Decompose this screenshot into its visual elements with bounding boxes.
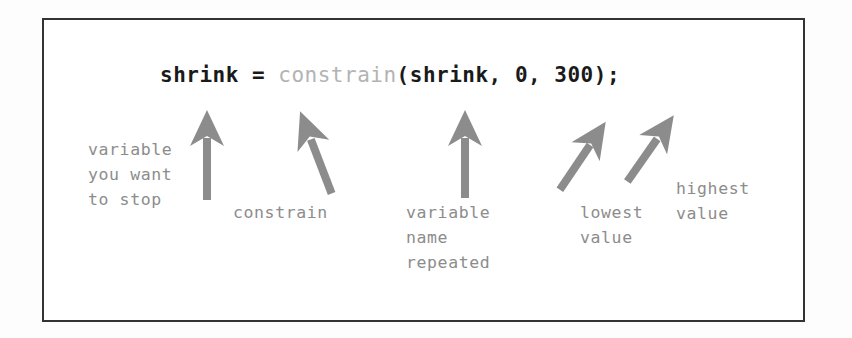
code-token-arguments: (shrink, 0, 300);	[397, 63, 620, 87]
code-line: shrink = constrain(shrink, 0, 300);	[160, 62, 620, 88]
annotation-label-constrain: constrain	[233, 200, 328, 225]
code-token-function-name: constrain	[278, 63, 396, 87]
annotation-label-lowest-value: lowest value	[580, 200, 643, 250]
annotation-label-variable-name-repeated: variable name repeated	[406, 200, 490, 275]
code-token-assignment: shrink =	[160, 63, 278, 87]
annotation-label-highest-value: highest value	[676, 176, 750, 226]
annotation-label-variable-you-want-to-stop: variable you want to stop	[88, 137, 172, 212]
code-annotation-figure: shrink = constrain(shrink, 0, 300);	[0, 0, 852, 338]
